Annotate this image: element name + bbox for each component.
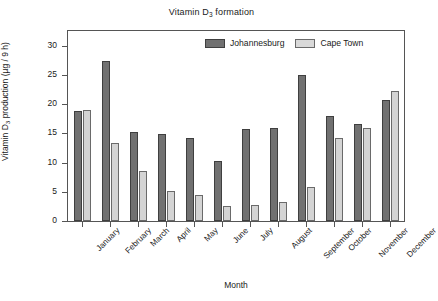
bar-group — [96, 31, 124, 221]
bar-group — [236, 31, 264, 221]
bar-group — [124, 31, 152, 221]
dark-gray-swatch — [205, 39, 225, 48]
bar-cape-town — [391, 91, 399, 221]
bar-cape-town — [307, 187, 315, 221]
bar-group — [180, 31, 208, 221]
bar-johannesburg — [354, 124, 362, 221]
bar-cape-town — [335, 138, 343, 221]
bar-cape-town — [167, 191, 175, 221]
bar-johannesburg — [74, 111, 82, 221]
x-axis-tick-label: May — [203, 226, 220, 243]
bar-group — [348, 31, 376, 221]
x-axis-title: Month — [67, 280, 405, 290]
legend-label: Johannesburg — [230, 38, 284, 48]
chart-title-suffix: formation — [213, 7, 255, 17]
bar-johannesburg — [326, 116, 334, 221]
y-axis-tick-label: 5 — [52, 186, 57, 196]
bar-group — [264, 31, 292, 221]
x-axis-tick-label: August — [289, 226, 313, 250]
bar-group — [320, 31, 348, 221]
x-axis-tick-label: March — [149, 226, 171, 248]
bar-cape-town — [251, 205, 259, 221]
bar-cape-town — [363, 128, 371, 221]
x-axis-tick-label: June — [231, 226, 250, 245]
bar-johannesburg — [214, 161, 222, 221]
bar-group — [208, 31, 236, 221]
bar-johannesburg — [158, 134, 166, 221]
bar-cape-town — [83, 110, 91, 221]
y-axis-tick-label: 15 — [48, 127, 57, 137]
bar-johannesburg — [186, 138, 194, 221]
bar-cape-town — [223, 206, 231, 221]
legend-entry: Cape Town — [295, 38, 363, 48]
x-axis-tick-label: January — [95, 226, 122, 253]
bar-johannesburg — [102, 61, 110, 221]
bar-cape-town — [279, 202, 287, 221]
x-axis-labels: JanuaryFebruaryMarchAprilMayJuneJulyAugu… — [68, 226, 404, 278]
y-axis-ticks: 051015202530 — [0, 30, 67, 222]
plot-area — [68, 31, 404, 221]
y-axis-tick-label: 0 — [52, 215, 57, 225]
y-axis-tick-label: 10 — [48, 157, 57, 167]
legend-label: Cape Town — [320, 38, 363, 48]
x-axis-tick-label: July — [258, 226, 275, 243]
bar-johannesburg — [242, 129, 250, 221]
bar-cape-town — [139, 171, 147, 221]
bar-cape-town — [111, 143, 119, 221]
y-axis-tick-label: 20 — [48, 98, 57, 108]
bar-group — [376, 31, 404, 221]
bar-cape-town — [195, 195, 203, 221]
legend-entry: Johannesburg — [205, 38, 284, 48]
x-axis-tick-label: April — [175, 226, 193, 244]
chart-title-prefix: Vitamin D — [169, 7, 209, 17]
x-axis-tick-label: November — [377, 226, 410, 259]
bar-johannesburg — [298, 75, 306, 221]
bar-johannesburg — [382, 100, 390, 221]
bar-johannesburg — [270, 128, 278, 221]
bar-group — [152, 31, 180, 221]
bar-group — [292, 31, 320, 221]
y-axis-tick-label: 25 — [48, 69, 57, 79]
chart-title: Vitamin D3 formation — [0, 7, 423, 18]
bar-johannesburg — [130, 132, 138, 221]
y-axis-tick-label: 30 — [48, 40, 57, 50]
light-gray-swatch — [295, 39, 315, 48]
bar-group — [68, 31, 96, 221]
chart-legend: JohannesburgCape Town — [205, 38, 363, 48]
